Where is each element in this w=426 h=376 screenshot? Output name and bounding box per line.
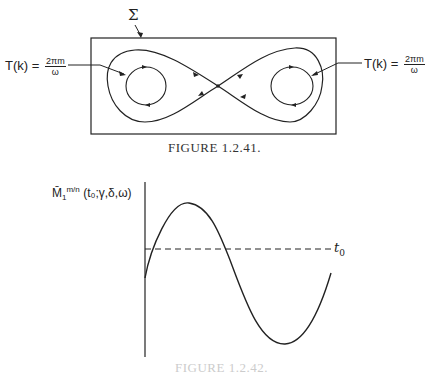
- right-frac-num: 2πm: [404, 54, 425, 65]
- right-fraction: 2πmω: [404, 54, 425, 75]
- left-period-label: T(k) = 2πmω: [5, 56, 66, 77]
- left-frac-num: 2πm: [45, 56, 66, 67]
- left-label-leader: [68, 65, 124, 74]
- sigma-label: Σ: [128, 6, 139, 24]
- ylabel-sup: m/n: [66, 185, 79, 194]
- saddle-point: [216, 84, 220, 88]
- ylabel-main: M̄: [52, 186, 62, 200]
- ylabel-args: (t₀;γ,δ,ω): [83, 186, 131, 200]
- figure-caption-1: FIGURE 1.2.41.: [168, 140, 261, 156]
- figure-caption-2: FIGURE 1.2.42.: [175, 360, 268, 376]
- left-frac-den: ω: [45, 67, 66, 77]
- right-frac-den: ω: [404, 65, 425, 75]
- left-label-prefix: T(k) =: [5, 58, 39, 73]
- right-label-prefix: T(k) =: [364, 56, 398, 71]
- ylabel-sub: 1: [62, 193, 66, 202]
- left-fraction: 2πmω: [45, 56, 66, 77]
- right-periodic-orbit: [271, 67, 313, 105]
- left-periodic-orbit: [126, 67, 166, 105]
- y-axis-label: M̄1m/n (t₀;γ,δ,ω): [52, 185, 132, 202]
- t0-sub: 0: [339, 248, 345, 258]
- t0-label: t0: [334, 240, 345, 258]
- homoclinic-orbit: [107, 48, 322, 122]
- right-period-label: T(k) = 2πmω: [364, 54, 425, 75]
- melnikov-curve: [145, 203, 331, 344]
